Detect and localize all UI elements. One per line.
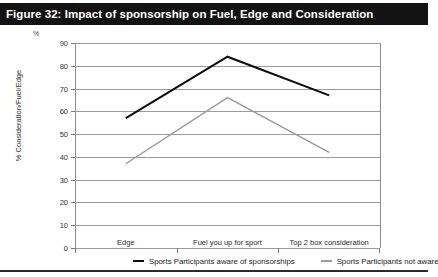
- y-tick-label: 10: [60, 221, 68, 230]
- y-tick-label: 50: [60, 130, 68, 139]
- legend-label-not-aware: Sports Participants not aware: [337, 257, 438, 266]
- y-tick-label: 60: [60, 107, 68, 116]
- series-line: [126, 57, 329, 119]
- y-tick-label: 90: [60, 39, 68, 48]
- y-tick-label: 20: [60, 198, 68, 207]
- y-tick-label: 80: [60, 61, 68, 70]
- y-tick-label: 70: [60, 84, 68, 93]
- plot-region: 9080706050403020100: [75, 43, 380, 248]
- y-tick-label: 30: [60, 175, 68, 184]
- plot-right-border: [380, 43, 381, 248]
- series-lines: [75, 43, 380, 248]
- series-line: [126, 98, 329, 164]
- chart-legend: Sports Participants aware of sponsorship…: [0, 253, 428, 269]
- legend-label-aware: Sports Participants aware of sponsorship…: [149, 257, 295, 266]
- bottom-divider: [0, 270, 428, 272]
- y-tick-label: 0: [64, 244, 68, 253]
- y-tick-label: 40: [60, 152, 68, 161]
- x-axis-label: Top 2 box consideration: [290, 238, 369, 247]
- legend-item-aware: Sports Participants aware of sponsorship…: [133, 257, 295, 266]
- chart-area: % % Consideration/Fuel/Edge 908070605040…: [0, 25, 428, 252]
- x-axis-label: Fuel you up for sport: [193, 238, 262, 247]
- y-axis-title: % Consideration/Fuel/Edge: [14, 46, 23, 186]
- x-axis-label: Edge: [117, 238, 135, 247]
- legend-item-not-aware: Sports Participants not aware: [321, 257, 438, 266]
- legend-line-marker-grey-icon: [321, 260, 332, 262]
- y-axis-unit-label: %: [33, 30, 39, 37]
- figure-title-bar: Figure 32: Impact of sponsorship on Fuel…: [0, 3, 428, 25]
- page-title: Figure 32: Impact of sponsorship on Fuel…: [0, 8, 373, 20]
- gridline: [75, 248, 380, 249]
- legend-line-marker-dark-icon: [133, 260, 144, 262]
